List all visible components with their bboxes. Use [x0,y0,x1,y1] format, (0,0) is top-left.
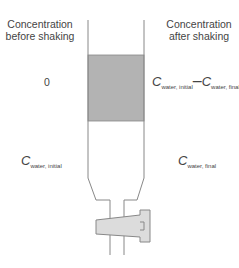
minus-operator: – [193,72,202,89]
subscript: water, final [187,163,216,169]
stopcock [96,210,150,242]
symbol: C [152,74,161,89]
symbol: C [21,153,30,168]
subscript: water, initial [30,163,61,169]
symbol: C [178,153,187,168]
symbol: C [202,74,211,89]
bottom-layer-after-value: Cwater, final [178,151,216,169]
top-layer-after-value: Cwater, initial–Cwater, final [152,72,239,90]
header-after-shaking: Concentration after shaking [160,18,238,42]
bottom-layer-before-value: Cwater, initial [21,151,62,169]
organic-layer [88,55,144,121]
subscript: water, final [211,84,239,90]
subscript: water, initial [161,84,192,90]
top-layer-before-value: 0 [40,76,54,88]
header-before-shaking: Concentration before shaking [4,18,76,42]
